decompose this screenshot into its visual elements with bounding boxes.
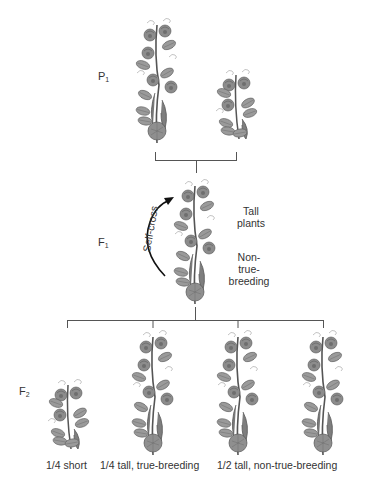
phenotype-line-1: Tall [226,205,276,217]
p1-cross-bracket [155,152,237,173]
genotype-line-1: Non- [222,251,276,263]
caption-tall-true-breeding: 1/4 tall, true-breeding [100,459,199,471]
f1-generation-label: F1 [98,236,109,249]
f2-tall-non-true-breeding-plant-1 [238,337,239,338]
f2-tall-true-breeding-plant [153,337,154,338]
f1-phenotype-note: Tall plants [226,205,276,229]
phenotype-line-2: plants [226,217,276,229]
genotype-line-2: true- [222,263,276,275]
f1-genotype-note: Non- true- breeding [222,251,276,287]
f1-tall-plant [195,186,196,187]
caption-short: 1/4 short [46,459,87,471]
f2-label-subscript: 2 [26,391,30,398]
p1-short-plant [236,75,237,76]
f2-generation-label: F2 [19,385,30,398]
f2-offspring-bracket [67,307,324,328]
p1-label-subscript: 1 [105,76,109,83]
caption-tall-non-true-breeding: 1/2 tall, non-true-breeding [217,459,337,471]
f2-label-letter: F [19,385,26,397]
f1-label-letter: F [98,236,105,248]
genotype-line-3: breeding [222,275,276,287]
p1-tall-plant [157,25,158,26]
f1-label-subscript: 1 [105,242,109,249]
f2-short-plant [68,385,69,386]
p1-generation-label: P1 [98,70,109,83]
f2-tall-non-true-breeding-plant-2 [323,337,324,338]
